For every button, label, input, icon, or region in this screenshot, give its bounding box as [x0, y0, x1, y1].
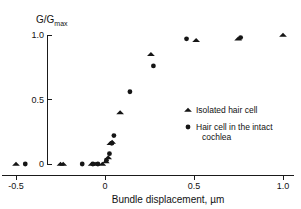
y-axis-label-main: G/G — [36, 14, 55, 25]
x-tick-label: 0 — [102, 181, 107, 191]
chart-figure: G/Gmax 00.51.0-0.500.51.0 Isolated hair … — [0, 0, 301, 209]
data-point-circle — [107, 151, 112, 156]
data-point-circle — [151, 64, 156, 69]
legend-label: Hair cell in the intact — [196, 122, 273, 132]
data-point-circle — [80, 162, 85, 167]
legend-marker-triangle — [184, 108, 192, 112]
data-point-circle — [184, 36, 189, 41]
data-point-circle — [23, 162, 28, 167]
x-axis-title: Bundle displacement, µm — [112, 194, 225, 205]
legend-marker-circle — [186, 125, 191, 130]
x-tick-label: 1.0 — [277, 181, 290, 191]
data-point-circle — [238, 35, 243, 40]
legend-label: Isolated hair cell — [196, 105, 258, 115]
x-tick-label: 0.5 — [188, 181, 201, 191]
data-point-triangle — [192, 38, 200, 42]
scatter-plot: G/Gmax 00.51.0-0.500.51.0 Isolated hair … — [0, 0, 301, 209]
data-point-triangle — [116, 110, 124, 114]
data-point-triangle — [12, 162, 20, 166]
y-tick-label: 0.5 — [31, 95, 44, 105]
legend-label-continued: cochlea — [202, 132, 232, 142]
data-point-circle — [90, 162, 95, 167]
data-point-triangle — [279, 33, 287, 37]
data-point-circle — [112, 133, 117, 138]
data-point-circle — [95, 162, 100, 167]
svg-text:G/Gmax: G/Gmax — [36, 14, 68, 27]
data-markers — [12, 33, 287, 167]
y-axis-label-subscript: max — [54, 20, 68, 27]
data-point-circle — [109, 141, 114, 146]
data-point-circle — [104, 158, 109, 163]
y-tick-label: 1.0 — [31, 30, 44, 40]
chart-legend: Isolated hair cellHair cell in the intac… — [184, 105, 273, 142]
y-axis-label-group: G/Gmax — [36, 14, 68, 27]
data-point-circle — [128, 89, 133, 94]
y-tick-label: 0 — [39, 159, 44, 169]
data-point-triangle — [147, 52, 155, 56]
x-tick-label: -0.5 — [8, 181, 24, 191]
